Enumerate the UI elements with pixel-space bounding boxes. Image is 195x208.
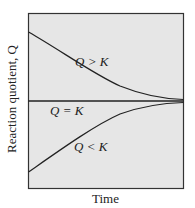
chart-plot	[0, 0, 195, 208]
y-axis-label: Reaction quotient, Q	[4, 39, 20, 159]
annotation-q-less-k: Q < K	[74, 140, 107, 154]
annotation-q-equal-k: Q = K	[50, 104, 83, 118]
annotation-q-greater-k: Q > K	[75, 55, 108, 69]
x-axis-label: Time	[28, 191, 183, 207]
